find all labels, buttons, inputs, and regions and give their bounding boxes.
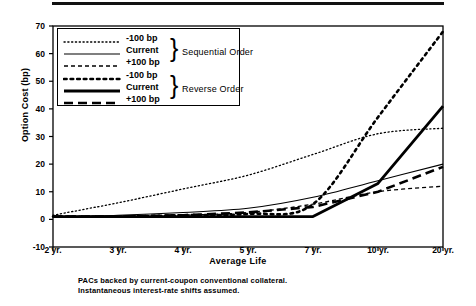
y-axis-tick-label: 30 [15, 132, 45, 142]
footnote-line-1: PACs backed by current-coupon convention… [78, 276, 287, 285]
legend-line-sample [63, 58, 122, 70]
legend-line-sample [63, 34, 122, 46]
legend-entry: +100 bp [63, 58, 235, 70]
y-axis-tick-label: 0 [15, 214, 45, 224]
x-axis-tick-label: 2 yr. [26, 245, 80, 255]
legend-line-sample [63, 71, 122, 83]
legend-entry: +100 bp [63, 95, 235, 107]
x-axis-tick-label: 7 yr. [286, 245, 340, 255]
chart-legend: -100 bpCurrent+100 bp}Sequential Order-1… [57, 28, 240, 106]
x-axis-tick-label: 10 yr. [351, 245, 405, 255]
chart-series-line [53, 164, 443, 216]
y-axis-tick-label: 40 [15, 104, 45, 114]
chart-series-line [53, 186, 443, 216]
x-axis-tick-label: 4 yr. [156, 245, 210, 255]
legend-entry-label: -100 bp [126, 70, 158, 80]
y-axis-tick-label: 50 [15, 76, 45, 86]
chart-series-line [53, 128, 443, 215]
y-axis-tick-label: 60 [15, 49, 45, 59]
chart-series-line [53, 106, 443, 217]
legend-group-brace: } [170, 36, 178, 61]
footnote-line-2: Instantaneous interest-rate shifts assum… [78, 286, 240, 295]
legend-entry-label: +100 bp [126, 94, 160, 104]
legend-entry-list: -100 bpCurrent+100 bp}Sequential Order-1… [58, 29, 239, 105]
legend-entry-label: Current [126, 82, 159, 92]
legend-line-sample [63, 95, 122, 107]
chart-canvas: Option Cost (bp) Average Life -100102030… [0, 0, 476, 270]
x-axis-tick-label: 5 yr. [221, 245, 275, 255]
legend-group-label: Sequential Order [182, 47, 253, 57]
x-axis-tick-label: 20 yr. [416, 245, 470, 255]
x-axis-tick-label: 3 yr. [91, 245, 145, 255]
legend-group-brace: } [170, 73, 178, 98]
legend-entry-label: Current [126, 45, 159, 55]
legend-group-label: Reverse Order [182, 84, 244, 94]
legend-line-sample [63, 46, 122, 58]
legend-entry-label: +100 bp [126, 57, 160, 67]
y-axis-tick-label: 70 [15, 21, 45, 31]
figure-root: Option Cost (bp) Average Life -100102030… [0, 0, 476, 306]
legend-entry-label: -100 bp [126, 33, 158, 43]
y-axis-tick-label: 20 [15, 159, 45, 169]
chart-footnote: PACs backed by current-coupon convention… [78, 276, 287, 296]
y-axis-tick-label: 10 [15, 187, 45, 197]
legend-line-sample [63, 83, 122, 95]
x-axis-title: Average Life [0, 256, 476, 266]
